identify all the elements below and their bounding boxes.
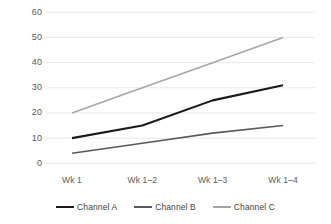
y-tick-label: 60 xyxy=(18,8,42,17)
legend-swatch-icon xyxy=(134,206,152,208)
legend-item-channel-a[interactable]: Channel A xyxy=(56,203,117,212)
legend-label: Channel C xyxy=(234,203,275,212)
series-line-channel-b xyxy=(72,126,283,154)
y-tick-label: 20 xyxy=(18,108,42,117)
legend-swatch-icon xyxy=(213,206,231,208)
chart-legend: Channel AChannel BChannel C xyxy=(0,203,331,212)
y-tick-label: 50 xyxy=(18,33,42,42)
x-tick-label-3: Wk 1–3 xyxy=(198,176,227,185)
series-line-channel-a xyxy=(72,85,283,138)
y-tick-label: 10 xyxy=(18,134,42,143)
y-tick-label: 0 xyxy=(18,159,42,168)
series-group xyxy=(72,37,283,153)
x-tick-label-2: Wk 1–2 xyxy=(128,176,157,185)
y-tick-label: 30 xyxy=(18,83,42,92)
series-line-channel-c xyxy=(72,37,283,113)
legend-label: Channel A xyxy=(77,203,117,212)
line-chart: 0102030405060 Wk 1Wk 1–2Wk 1–3Wk 1–4 Cha… xyxy=(0,0,331,224)
chart-plot-area xyxy=(0,0,331,224)
y-tick-label: 40 xyxy=(18,58,42,67)
legend-label: Channel B xyxy=(155,203,196,212)
legend-item-channel-c[interactable]: Channel C xyxy=(213,203,275,212)
x-tick-label-4: Wk 1–4 xyxy=(268,176,297,185)
x-tick-label-1: Wk 1 xyxy=(62,176,82,185)
legend-item-channel-b[interactable]: Channel B xyxy=(134,203,196,212)
legend-swatch-icon xyxy=(56,206,74,208)
